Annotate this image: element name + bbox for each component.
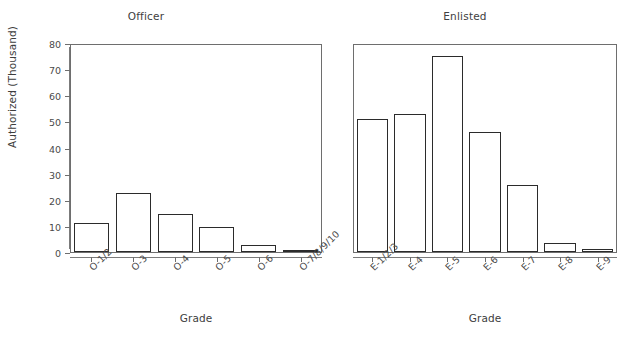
- bar-slot: [429, 45, 466, 252]
- x-axis-title-officer: Grade: [70, 312, 322, 324]
- y-axis-tick-label: 0: [55, 248, 61, 259]
- bar[interactable]: [241, 245, 276, 252]
- bar-slot: [113, 45, 155, 252]
- bar-slot: [279, 45, 321, 252]
- bar-slot: [466, 45, 503, 252]
- y-axis-tick: [65, 253, 70, 254]
- bar[interactable]: [507, 185, 538, 252]
- x-axis-title-enlisted: Grade: [353, 312, 617, 324]
- x-axis-tick-label: O-5: [213, 253, 233, 273]
- bar[interactable]: [582, 249, 613, 252]
- bars-enlisted: [354, 45, 616, 252]
- y-axis-tick-label: 50: [49, 117, 61, 128]
- plot-frame-enlisted: [353, 44, 617, 253]
- x-axis-tick-label: O-4: [171, 253, 191, 273]
- plot-frame-officer: [70, 44, 322, 253]
- bar-slot: [238, 45, 280, 252]
- bar[interactable]: [116, 193, 151, 252]
- bar[interactable]: [469, 132, 500, 252]
- y-axis-tick-label: 30: [49, 169, 61, 180]
- y-axis-tick-label: 60: [49, 91, 61, 102]
- y-axis-tick-label: 20: [49, 195, 61, 206]
- bar[interactable]: [394, 114, 425, 252]
- y-axis-officer: 01020304050607080: [62, 44, 70, 253]
- bars-officer: [71, 45, 321, 252]
- x-axis-officer: O-1/2O-3O-4O-5O-6O-7/8/9/10: [70, 257, 322, 263]
- y-axis-tick-label: 70: [49, 65, 61, 76]
- x-axis-enlisted: E-1/2/3E-4E-5E-6E-7E-8E-9: [353, 257, 617, 263]
- panel-title-officer: Officer: [0, 10, 314, 22]
- panel-title-enlisted: Enlisted: [312, 10, 618, 22]
- bar-slot: [391, 45, 428, 252]
- bar[interactable]: [158, 214, 193, 252]
- figure-root: Officer 01020304050607080 Authorized (Th…: [0, 0, 642, 341]
- bar-slot: [154, 45, 196, 252]
- y-axis-tick-label: 80: [49, 39, 61, 50]
- bar[interactable]: [432, 56, 463, 252]
- y-axis-tick-label: 10: [49, 221, 61, 232]
- x-axis-tick-label: O-3: [129, 253, 149, 273]
- bar-slot: [196, 45, 238, 252]
- y-axis-tick-label: 40: [49, 143, 61, 154]
- x-axis-tick-label: O-6: [255, 253, 275, 273]
- bar[interactable]: [357, 119, 388, 252]
- bar-slot: [504, 45, 541, 252]
- bar-slot: [579, 45, 616, 252]
- bar[interactable]: [199, 227, 234, 252]
- panel-officer: Officer 01020304050607080 Authorized (Th…: [0, 0, 336, 341]
- bar[interactable]: [544, 243, 575, 252]
- bar-slot: [354, 45, 391, 252]
- bar-slot: [71, 45, 113, 252]
- panel-enlisted: Enlisted E-1/2/3E-4E-5E-6E-7E-8E-9 Grade: [336, 0, 642, 341]
- bar-slot: [541, 45, 578, 252]
- y-axis-title: Authorized (Thousand): [6, 26, 18, 148]
